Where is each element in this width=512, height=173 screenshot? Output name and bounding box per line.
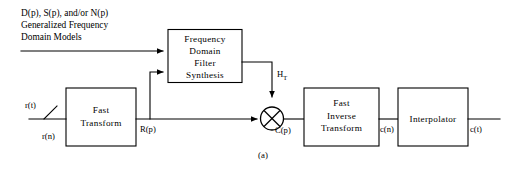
figure-caption: (a) [258,150,268,160]
annotation-line-3: Domain Models [21,32,82,42]
block-diagram-canvas: D(p), S(p), and/or N(p) Generalized Freq… [0,0,512,173]
fast-inverse-label-line-3: Transform [321,123,362,133]
signal-label-rp: R(p) [140,124,156,134]
fast-transform-label-line-1: Fast [93,105,110,115]
frequency-filter-label-line-2: Domain [189,46,221,56]
sampler-switch-arm [44,106,57,119]
block-diagram-figure: D(p), S(p), and/or N(p) Generalized Freq… [0,0,512,173]
fast-transform-label-line-2: Transform [80,118,121,128]
annotation-line-1: D(p), S(p), and/or N(p) [21,8,108,19]
block-fast-transform [66,88,136,146]
frequency-filter-label-line-3: Filter [194,58,216,68]
wire-rp-tap-to-filter [150,72,163,119]
signal-label-ht: HT [277,69,287,81]
fast-inverse-label-line-1: Fast [333,98,350,108]
signal-label-rt: r(t) [25,100,36,110]
signal-label-ct: c(t) [470,124,482,134]
fast-inverse-label-line-2: Inverse [327,111,356,121]
signal-label-cp: C(p) [275,125,291,135]
annotation-line-2: Generalized Frequency [21,20,109,30]
signal-label-cn: c(n) [380,124,394,134]
wire-ht-to-multiplier [242,62,272,97]
frequency-filter-label-line-4: Synthesis [186,70,224,80]
signal-label-rn: r(n) [42,131,55,141]
interpolator-label: Interpolator [410,114,457,124]
frequency-filter-label-line-1: Frequency [184,34,226,44]
signal-label-ht-subscript: T [283,74,287,81]
